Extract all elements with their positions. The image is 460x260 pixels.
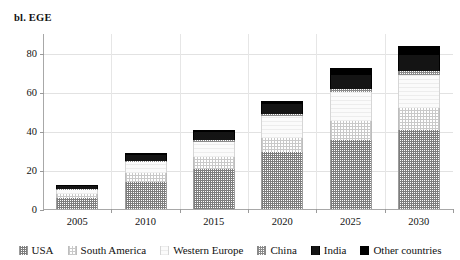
- y-tick-label: 40: [27, 127, 38, 138]
- bar-segment-south-america[interactable]: [330, 121, 372, 140]
- legend-item-usa[interactable]: USA: [19, 244, 54, 256]
- stacked-bar-chart: bl. EGE 020406080 2005201020152020202520…: [0, 0, 460, 260]
- bar-segment-western-europe[interactable]: [125, 162, 167, 173]
- bar-segment-western-europe[interactable]: [398, 75, 440, 108]
- legend-label: China: [270, 244, 296, 256]
- bar-segment-western-europe[interactable]: [261, 116, 303, 138]
- legend-swatch: [257, 246, 266, 255]
- bar-segment-other-countries[interactable]: [125, 153, 167, 154]
- bar-segment-usa[interactable]: [398, 130, 440, 209]
- bar-segment-western-europe[interactable]: [330, 92, 372, 121]
- y-tick: [40, 132, 44, 133]
- legend-swatch: [160, 246, 169, 255]
- bar-segment-china[interactable]: [398, 71, 440, 75]
- legend-label: Other countries: [373, 244, 441, 256]
- y-tick: [40, 171, 44, 172]
- legend-item-india[interactable]: India: [311, 244, 347, 256]
- bar-segment-south-america[interactable]: [398, 108, 440, 130]
- bar-segment-other-countries[interactable]: [330, 68, 372, 75]
- y-tick-label: 60: [27, 87, 38, 98]
- bar-segment-other-countries[interactable]: [193, 130, 235, 132]
- x-tick-label: 2015: [203, 216, 224, 227]
- plot-area: 020406080 200520102015202020252030: [43, 34, 453, 210]
- bar-segment-china[interactable]: [261, 114, 303, 116]
- x-tick: [316, 209, 317, 213]
- bar-segment-south-america[interactable]: [261, 138, 303, 153]
- bar-2015[interactable]: [193, 130, 235, 209]
- bar-2020[interactable]: [261, 101, 303, 209]
- y-axis-line: [43, 34, 44, 210]
- legend-label: South America: [81, 244, 147, 256]
- legend-item-other-countries[interactable]: Other countries: [360, 244, 441, 256]
- bar-segment-south-america[interactable]: [125, 173, 167, 182]
- bar-segment-usa[interactable]: [261, 152, 303, 209]
- y-tick: [40, 54, 44, 55]
- bar-segment-usa[interactable]: [56, 198, 98, 209]
- bar-2010[interactable]: [125, 153, 167, 209]
- bar-segment-india[interactable]: [330, 75, 372, 89]
- bar-segment-usa[interactable]: [193, 169, 235, 209]
- bar-segment-other-countries[interactable]: [56, 185, 98, 186]
- bar-segment-india[interactable]: [56, 186, 98, 190]
- bar-segment-other-countries[interactable]: [398, 46, 440, 55]
- bar-segment-western-europe[interactable]: [193, 142, 235, 158]
- legend-swatch: [360, 246, 369, 255]
- bar-segment-china[interactable]: [125, 161, 167, 163]
- y-tick: [40, 210, 44, 211]
- bar-segment-india[interactable]: [398, 55, 440, 72]
- vertical-gridline: [111, 34, 112, 210]
- legend-label: USA: [32, 244, 54, 256]
- x-tick: [385, 209, 386, 213]
- bar-segment-usa[interactable]: [330, 140, 372, 209]
- x-tick: [248, 209, 249, 213]
- bar-segment-china[interactable]: [193, 140, 235, 142]
- x-tick: [180, 209, 181, 213]
- bar-segment-other-countries[interactable]: [261, 101, 303, 104]
- vertical-gridline: [385, 34, 386, 210]
- legend-swatch: [19, 246, 28, 255]
- y-tick: [40, 93, 44, 94]
- y-tick-label: 20: [27, 166, 38, 177]
- bar-2030[interactable]: [398, 46, 440, 209]
- y-tick-label: 0: [32, 205, 37, 216]
- x-tick-label: 2010: [135, 216, 156, 227]
- vertical-gridline: [248, 34, 249, 210]
- chart-legend: USASouth AmericaWestern EuropeChinaIndia…: [0, 244, 460, 256]
- y-tick-label: 80: [27, 48, 38, 59]
- bar-2025[interactable]: [330, 68, 372, 209]
- vertical-gridline: [316, 34, 317, 210]
- legend-swatch: [68, 246, 77, 255]
- x-tick-label: 2025: [340, 216, 361, 227]
- legend-item-western-europe[interactable]: Western Europe: [160, 244, 243, 256]
- bar-segment-india[interactable]: [261, 104, 303, 114]
- y-axis-title: bl. EGE: [14, 12, 52, 23]
- legend-label: India: [324, 244, 347, 256]
- bar-segment-china[interactable]: [56, 189, 98, 190]
- legend-label: Western Europe: [173, 244, 243, 256]
- legend-swatch: [311, 246, 320, 255]
- bar-segment-china[interactable]: [330, 89, 372, 92]
- x-tick-label: 2020: [272, 216, 293, 227]
- x-tick: [111, 209, 112, 213]
- legend-item-china[interactable]: China: [257, 244, 296, 256]
- bar-segment-india[interactable]: [125, 155, 167, 161]
- bar-segment-western-europe[interactable]: [56, 190, 98, 194]
- x-tick-label: 2030: [408, 216, 429, 227]
- bar-segment-india[interactable]: [193, 132, 235, 140]
- vertical-gridline: [180, 34, 181, 210]
- x-tick: [453, 209, 454, 213]
- bar-segment-south-america[interactable]: [56, 194, 98, 198]
- bar-2005[interactable]: [56, 185, 98, 209]
- bar-segment-usa[interactable]: [125, 182, 167, 209]
- legend-item-south-america[interactable]: South America: [68, 244, 147, 256]
- bar-segment-south-america[interactable]: [193, 157, 235, 169]
- x-tick-label: 2005: [67, 216, 88, 227]
